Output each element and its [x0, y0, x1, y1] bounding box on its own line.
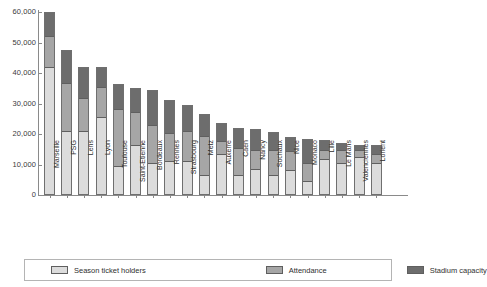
season-swatch	[51, 266, 68, 274]
x-axis-tick-mark	[308, 195, 309, 198]
x-axis-tick-label: PSG	[70, 140, 77, 200]
x-axis-tick-label: Nice	[293, 140, 300, 200]
bar-segment-attendance	[62, 83, 71, 131]
bar-segment-stadium-capacity	[62, 51, 71, 83]
capacity-swatch	[407, 266, 424, 274]
x-axis-tick-label: Auxerre	[225, 140, 232, 200]
x-axis-tick-label: Metz	[207, 140, 214, 200]
x-axis-tick-label: Lorient	[379, 140, 386, 200]
x-axis-tick-label: Le Mans	[345, 140, 352, 200]
x-axis-tick-mark	[204, 195, 205, 198]
x-axis-tick-mark	[290, 195, 291, 198]
x-axis-tick-mark	[153, 195, 154, 198]
attendance-swatch	[266, 266, 283, 274]
x-axis-tick-mark	[101, 195, 102, 198]
x-axis-tick-label: Caen	[242, 140, 249, 200]
bar-segment-stadium-capacity	[217, 124, 226, 140]
x-axis-tick-mark	[136, 195, 137, 198]
bar-segment-stadium-capacity	[97, 68, 106, 88]
chart-legend: Season ticket holders Attendance Stadium…	[24, 259, 392, 281]
x-axis-tick-label: Lille	[328, 140, 335, 200]
x-axis-tick-mark	[376, 195, 377, 198]
bar-segment-stadium-capacity	[165, 101, 174, 132]
bar-segment-stadium-capacity	[114, 85, 123, 109]
x-axis-tick-mark	[325, 195, 326, 198]
x-axis-tick-mark	[50, 195, 51, 198]
bar-segment-stadium-capacity	[200, 115, 209, 136]
legend-label-capacity: Stadium capacity	[430, 266, 487, 275]
bar-segment-stadium-capacity	[183, 106, 192, 131]
x-axis-tick-mark	[222, 195, 223, 198]
bar-segment-attendance	[45, 36, 54, 68]
x-axis-tick-mark	[84, 195, 85, 198]
x-axis-tick-mark	[273, 195, 274, 198]
x-axis-tick-mark	[239, 195, 240, 198]
x-axis-tick-label: Sochaux	[276, 140, 283, 200]
bar-segment-stadium-capacity	[45, 13, 54, 36]
x-axis-tick-mark	[187, 195, 188, 198]
bar-segment-stadium-capacity	[148, 91, 157, 125]
x-axis-tick-mark	[118, 195, 119, 198]
x-axis-tick-mark	[170, 195, 171, 198]
x-axis-tick-label: Rennes	[173, 140, 180, 200]
bar-segment-stadium-capacity	[131, 89, 140, 111]
x-axis-tick-label: Bordeaux	[156, 140, 163, 200]
x-axis-tick-label: Nancy	[259, 140, 266, 200]
legend-label-season: Season ticket holders	[74, 266, 146, 275]
x-axis-tick-mark	[256, 195, 257, 198]
bar-segment-attendance	[97, 87, 106, 117]
x-axis-tick-label: Marseille	[53, 140, 60, 200]
bar-segment-stadium-capacity	[79, 68, 88, 98]
x-axis-tick-mark	[342, 195, 343, 198]
x-axis-tick-label: Lens	[87, 140, 94, 200]
legend-item-stadium-capacity: Stadium capacity	[407, 266, 487, 275]
x-axis-tick-label: Lyon	[104, 140, 111, 200]
x-axis-tick-label: Valenciennes	[362, 140, 369, 200]
x-axis-tick-mark	[359, 195, 360, 198]
x-axis-tick-label: Strasbourg	[190, 140, 197, 200]
legend-item-season-ticket-holders: Season ticket holders	[51, 266, 146, 275]
x-axis-tick-label: Saint-Etienne	[139, 140, 146, 200]
x-axis-tick-mark	[67, 195, 68, 198]
legend-label-attendance: Attendance	[289, 266, 327, 275]
bar-segment-attendance	[79, 98, 88, 131]
legend-item-attendance: Attendance	[266, 266, 327, 275]
x-axis-tick-label: Toulouse	[121, 140, 128, 200]
x-axis-tick-label: Monaco	[311, 140, 318, 200]
